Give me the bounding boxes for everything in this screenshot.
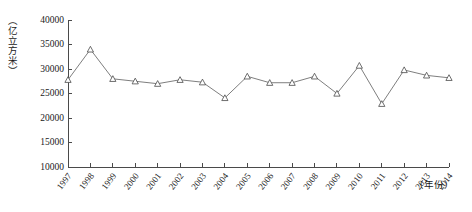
x-tick-label: 2001 [144, 171, 163, 191]
y-tick-label: 20000 [40, 113, 64, 123]
y-axis-ticks [68, 20, 72, 167]
x-tick-label: 1997 [55, 171, 74, 192]
x-tick-label: 2004 [211, 171, 230, 192]
data-point-marker [87, 46, 93, 52]
data-point-markers [65, 46, 452, 106]
y-tick-label: 40000 [40, 15, 64, 25]
data-point-marker [311, 73, 317, 79]
x-axis-ticks [68, 163, 449, 167]
x-tick-label: 2009 [324, 171, 343, 192]
data-point-marker [177, 77, 183, 83]
data-series-line [68, 49, 449, 103]
y-tick-label: 10000 [40, 162, 64, 172]
x-axis-title-text: （年份） [414, 179, 454, 190]
x-tick-label: 1998 [77, 171, 96, 192]
y-axis-tick-labels: 10000150002000025000300003500040000 [40, 15, 64, 172]
x-tick-label: 2002 [167, 171, 186, 191]
y-tick-label: 25000 [40, 88, 64, 98]
x-tick-label: 2006 [256, 171, 275, 192]
chart-figure: 10000150002000025000300003500040000 1997… [0, 0, 472, 212]
x-tick-label: 2005 [234, 171, 253, 192]
x-tick-label: 2012 [391, 171, 410, 191]
x-axis-title: （年份） [414, 177, 454, 191]
x-tick-label: 2000 [122, 171, 141, 192]
data-point-marker [401, 67, 407, 73]
y-axis-title: （亿立方米） [4, 16, 20, 136]
data-point-marker [356, 62, 362, 68]
x-tick-label: 2003 [189, 171, 208, 192]
x-tick-label: 2011 [369, 171, 388, 191]
data-point-marker [244, 73, 250, 79]
data-point-marker [379, 101, 385, 107]
x-tick-label: 2007 [279, 171, 298, 192]
x-tick-label: 2010 [346, 171, 365, 192]
y-tick-label: 35000 [40, 39, 64, 49]
x-tick-label: 1999 [99, 171, 118, 192]
y-tick-label: 30000 [40, 64, 64, 74]
x-tick-label: 2008 [301, 171, 320, 192]
line-chart-canvas: 10000150002000025000300003500040000 1997… [0, 0, 472, 212]
y-axis-title-text: （亿立方米） [7, 16, 18, 76]
y-tick-label: 15000 [40, 137, 64, 147]
x-axis-tick-labels: 1997199819992000200120022003200420052006… [55, 171, 455, 192]
